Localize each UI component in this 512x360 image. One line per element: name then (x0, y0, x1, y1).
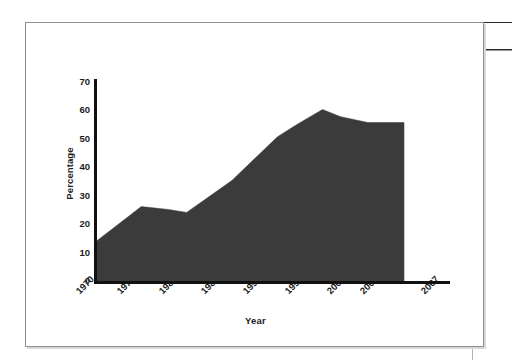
area-chart (26, 23, 485, 348)
area-series-percentage (96, 110, 404, 283)
plot-area: Percentage Year 70 60 50 40 30 20 10 0 1… (26, 23, 485, 348)
figure-frame: Percentage Year 70 60 50 40 30 20 10 0 1… (25, 22, 484, 347)
